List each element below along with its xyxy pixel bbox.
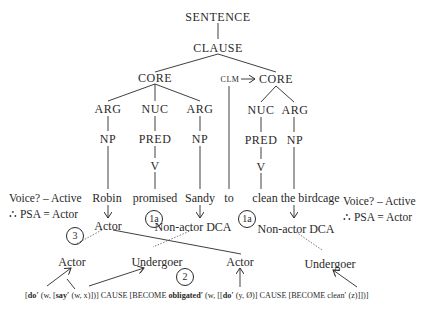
role-undergoer-lower-1: Undergoer bbox=[131, 256, 182, 268]
node-pred-left: PRED bbox=[139, 133, 172, 145]
node-pred-right: PRED bbox=[245, 134, 278, 146]
word-clean-the-birdcage: clean the birdcage bbox=[252, 192, 339, 204]
voice-note-left-line2: ∴ PSA = Actor bbox=[9, 209, 78, 221]
node-arg-left-2: ARG bbox=[187, 103, 214, 115]
node-nuc-left: NUC bbox=[142, 103, 169, 115]
voice-note-left-line1: Voice? – Active bbox=[9, 193, 82, 205]
word-sandy: Sandy bbox=[185, 192, 215, 204]
ls-do-predicate: do′ bbox=[28, 291, 39, 300]
role-actor-lower-2: Actor bbox=[226, 256, 253, 268]
role-nonactor-dca-mid: Non-actor DCA bbox=[155, 221, 232, 233]
ls-text: (w, [ bbox=[39, 291, 56, 300]
node-np-left-2: NP bbox=[192, 133, 208, 145]
node-v-right: V bbox=[256, 161, 265, 173]
node-arg-right: ARG bbox=[282, 104, 309, 116]
ls-say-predicate: say′ bbox=[56, 291, 70, 300]
step-marker-1a-right: 1a bbox=[238, 210, 256, 228]
node-nuc-right: NUC bbox=[248, 104, 275, 116]
ls-do-predicate-2: do′ bbox=[223, 291, 234, 300]
node-arg-left-1: ARG bbox=[95, 103, 122, 115]
word-promised: promised bbox=[133, 192, 178, 204]
voice-note-right-line1: Voice? – Active bbox=[343, 196, 416, 208]
voice-note-right-line2: ∴ PSA = Actor bbox=[343, 212, 412, 224]
node-v-left: V bbox=[150, 160, 159, 172]
ls-text: (w, [[ bbox=[203, 291, 223, 300]
ls-text: (y, Ø)] CAUSE [BECOME clean′ (z)]])] bbox=[234, 291, 369, 300]
node-core-right: CORE bbox=[259, 73, 293, 85]
word-to: to bbox=[224, 192, 233, 204]
step-marker-3: 3 bbox=[66, 227, 84, 245]
step-marker-2: 2 bbox=[176, 268, 194, 286]
role-nonactor-dca-right: Non-actor DCA bbox=[258, 223, 335, 235]
node-np-left-1: NP bbox=[100, 133, 116, 145]
ls-obligated-predicate: obligated′ bbox=[168, 291, 203, 300]
logical-structure: [do′ (w, [say′ (w, x)])] CAUSE [BECOME o… bbox=[25, 292, 368, 300]
ls-text: (w, x)])] CAUSE [BECOME bbox=[69, 291, 168, 300]
role-undergoer-lower-2: Undergoer bbox=[304, 258, 355, 270]
step-marker-1a-left: 1a bbox=[145, 210, 163, 228]
role-actor-upper: Actor bbox=[94, 220, 121, 232]
role-actor-lower-1: Actor bbox=[58, 256, 85, 268]
node-sentence: SENTENCE bbox=[185, 11, 250, 23]
node-np-right: NP bbox=[287, 134, 303, 146]
node-clm: CLM bbox=[221, 76, 240, 84]
node-clause: CLAUSE bbox=[193, 42, 243, 54]
node-core-left: CORE bbox=[138, 72, 172, 84]
word-robin: Robin bbox=[92, 192, 121, 204]
